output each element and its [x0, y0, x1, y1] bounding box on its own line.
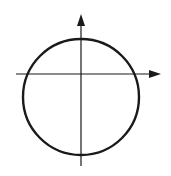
- circle-on-axes-diagram: [0, 0, 171, 176]
- y-axis-arrow-icon: [77, 14, 85, 26]
- x-axis-arrow-icon: [149, 70, 161, 78]
